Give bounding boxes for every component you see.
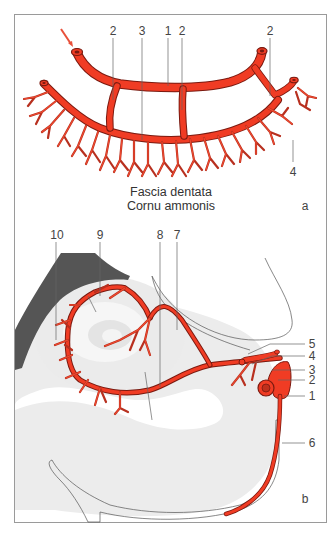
label-a-4: 4 xyxy=(290,165,297,179)
label-b-8: 8 xyxy=(157,228,164,242)
caption-cornu-ammonis: Cornu ammonis xyxy=(127,199,215,213)
label-a-1: 1 xyxy=(165,24,172,38)
label-b-10: 10 xyxy=(50,228,64,242)
label-b-7: 7 xyxy=(174,228,181,242)
caption-fascia-dentata: Fascia dentata xyxy=(130,185,212,199)
panel-letter-b: b xyxy=(302,492,309,506)
anatomical-figure: 2 3 1 2 2 4 Fascia dentata Cornu ammonis… xyxy=(0,0,335,533)
label-b-6: 6 xyxy=(309,436,316,450)
label-b-4: 4 xyxy=(309,349,316,363)
label-a-2-right: 2 xyxy=(267,24,274,38)
label-a-3: 3 xyxy=(139,24,146,38)
figure-canvas: 2 3 1 2 2 4 Fascia dentata Cornu ammonis… xyxy=(0,0,335,533)
label-b-9: 9 xyxy=(97,228,104,242)
label-a-2-mid: 2 xyxy=(179,24,186,38)
label-b-2: 2 xyxy=(309,373,316,387)
label-b-1: 1 xyxy=(309,389,316,403)
label-a-2-left: 2 xyxy=(110,24,117,38)
panel-letter-a: a xyxy=(302,199,309,213)
